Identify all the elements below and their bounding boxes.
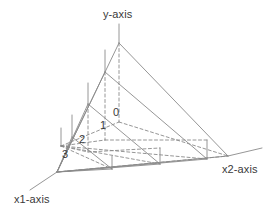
x2-axis-label: x2-axis [222, 163, 258, 175]
diagram-canvas [0, 0, 277, 217]
plane-3-back-edge [61, 146, 112, 169]
plane-1-right-edge [105, 72, 207, 159]
plane-label-2: 2 [79, 133, 85, 145]
x2-axis-line [228, 148, 262, 156]
plane-3-right-edge [72, 137, 112, 169]
plane-1-back-edge [61, 146, 207, 159]
x1-axis-label: x1-axis [14, 193, 50, 205]
y-axis-label: y-axis [103, 8, 132, 20]
plane-2-right-edge [88, 104, 160, 164]
plane-label-1: 1 [100, 119, 106, 131]
x1-axis-line [30, 172, 57, 190]
plane-label-3: 3 [62, 148, 68, 160]
plane-label-0: 0 [113, 106, 119, 118]
simplex-diagram: y-axis x1-axis x2-axis 0 1 2 3 [0, 0, 277, 217]
